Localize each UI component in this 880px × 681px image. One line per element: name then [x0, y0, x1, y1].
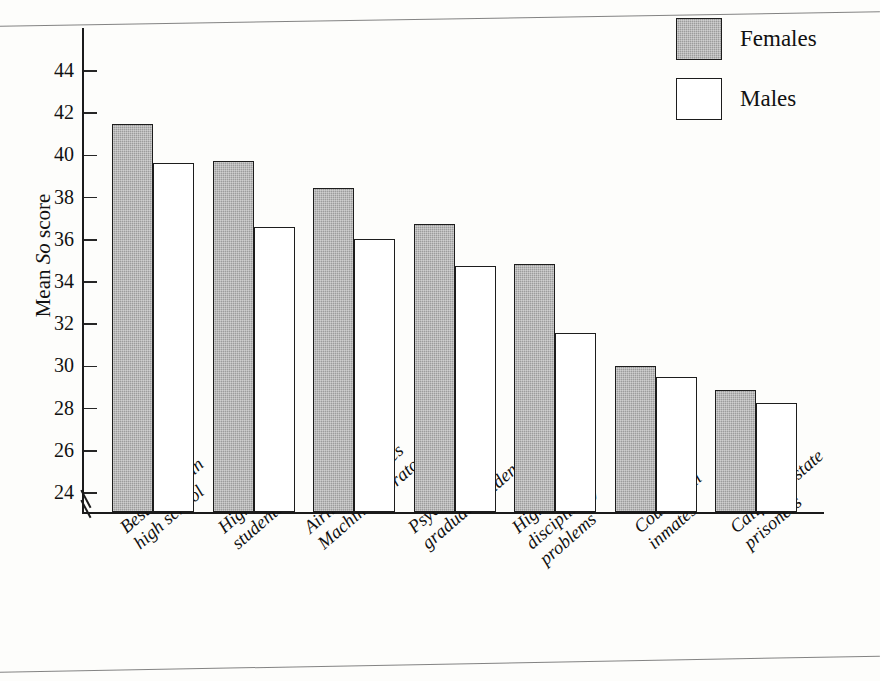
legend-swatch-females — [676, 18, 722, 60]
bar-females — [313, 188, 354, 512]
bar-females — [112, 124, 153, 512]
y-axis-label-prefix: Mean — [31, 264, 55, 317]
bar-females — [615, 366, 656, 512]
y-axis-tick-label: 42 — [40, 102, 74, 122]
bar-females — [715, 390, 756, 512]
y-axis-tick-label: 24 — [40, 482, 74, 502]
bar-females — [213, 161, 254, 512]
legend-label: Females — [740, 26, 817, 52]
legend: FemalesMales — [676, 18, 817, 138]
y-axis-label: Mean So score — [31, 151, 56, 361]
y-axis-tick-label: 44 — [40, 60, 74, 80]
legend-swatch-males — [676, 78, 722, 120]
legend-label: Males — [740, 86, 796, 112]
y-axis-tick-label: 26 — [40, 440, 74, 460]
bar-males — [656, 377, 697, 512]
legend-item: Males — [676, 78, 817, 120]
y-axis-tick-label: 28 — [40, 398, 74, 418]
bar-females — [414, 224, 455, 512]
y-axis-label-italic: So — [31, 243, 55, 264]
y-axis-label-suffix: score — [31, 194, 55, 244]
bar-males — [455, 266, 496, 512]
bar-females — [514, 264, 555, 512]
bar-males — [354, 239, 395, 512]
bar-males — [756, 403, 797, 512]
bar-males — [555, 333, 596, 512]
bar-males — [153, 163, 194, 512]
legend-item: Females — [676, 18, 817, 60]
bar-males — [254, 227, 295, 512]
